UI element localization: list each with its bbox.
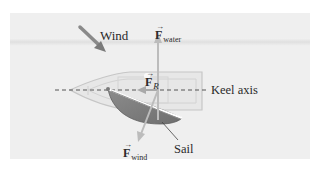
- vector-arrow-icon: →: [124, 141, 132, 149]
- f-water-label: → Fwater: [155, 29, 181, 41]
- f-r-label: → FR: [145, 76, 159, 88]
- sailboat-force-diagram: Wind Keel axis Sail → Fwater → FR → Fwin…: [0, 0, 322, 171]
- sail-label: Sail: [174, 143, 193, 156]
- f-wind-label: → Fwind: [123, 147, 147, 159]
- vector-arrow-icon: →: [146, 70, 154, 78]
- wind-label: Wind: [100, 29, 128, 42]
- vector-arrow-icon: →: [156, 23, 164, 31]
- keel-axis-label: Keel axis: [211, 84, 258, 97]
